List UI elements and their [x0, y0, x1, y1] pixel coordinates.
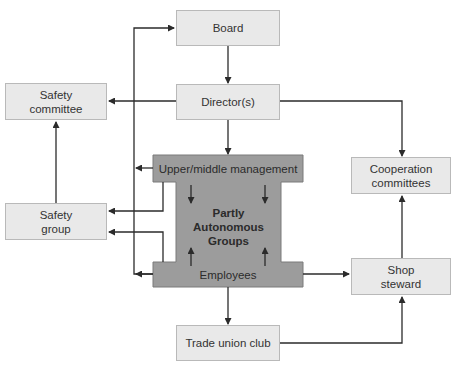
cooperation-committees-label: Cooperation committees [370, 162, 433, 190]
safety-group-node: Safety group [5, 203, 107, 240]
directors-node: Director(s) [176, 84, 280, 120]
safety-group-label: Safety group [40, 208, 73, 236]
trade-union-club-label: Trade union club [185, 336, 270, 350]
cooperation-committees-node: Cooperation committees [351, 157, 451, 194]
board-node: Board [176, 10, 280, 46]
upper-middle-management-label: Upper/middle management [153, 162, 303, 176]
partly-autonomous-groups-label: Partly Autonomous Groups [176, 206, 281, 248]
safety-committee-node: Safety committee [5, 83, 107, 120]
trade-union-club-node: Trade union club [176, 325, 280, 361]
employees-label: Employees [153, 268, 303, 282]
shop-steward-node: Shop steward [351, 258, 451, 295]
directors-label: Director(s) [201, 95, 255, 109]
safety-committee-label: Safety committee [29, 88, 82, 116]
shop-steward-label: Shop steward [381, 263, 421, 291]
board-label: Board [213, 21, 244, 35]
